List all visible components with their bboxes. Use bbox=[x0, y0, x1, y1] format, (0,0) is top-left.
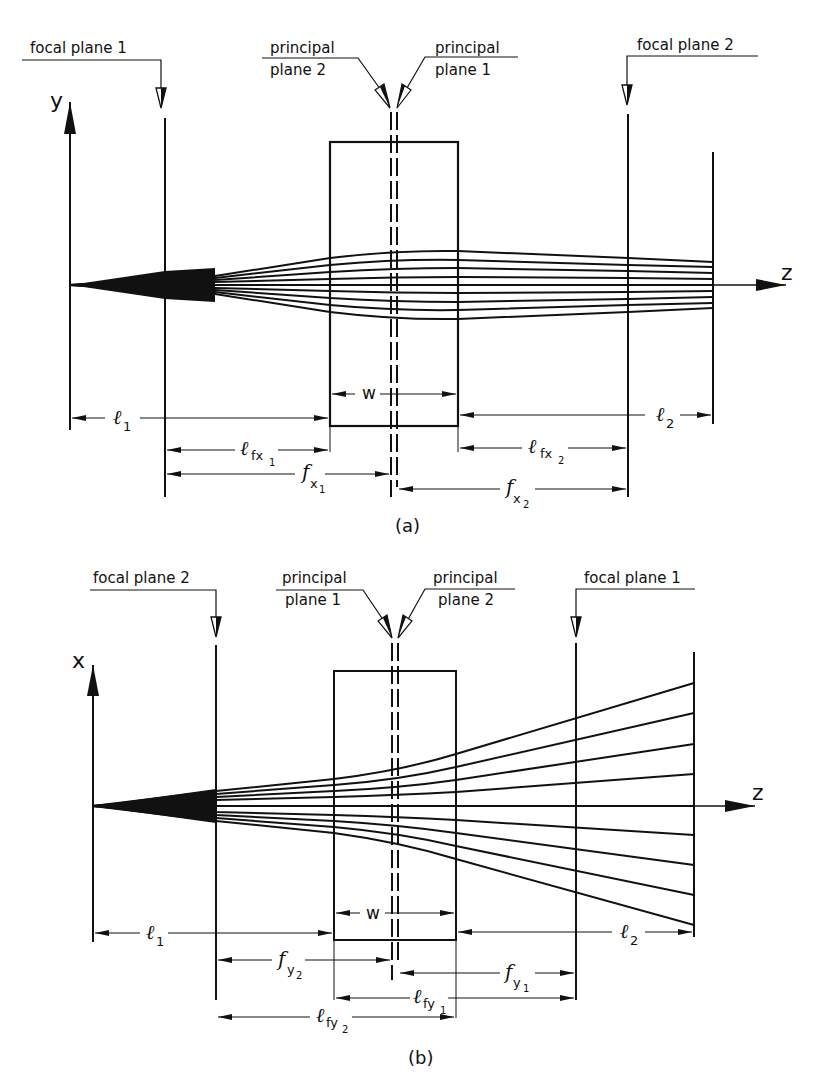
svg-text:ℓ: ℓ bbox=[113, 405, 122, 429]
callout-label-line2: plane 2 bbox=[438, 591, 494, 609]
callout-label-line1: principal bbox=[433, 569, 498, 587]
svg-text:ℓ: ℓ bbox=[146, 920, 155, 944]
dim-label-fy2: f y 2 bbox=[276, 947, 302, 981]
svg-text:1: 1 bbox=[123, 419, 131, 434]
axis-arrow-icon bbox=[64, 102, 76, 134]
svg-text:fx: fx bbox=[540, 446, 553, 461]
axis-label-y: y bbox=[50, 88, 63, 113]
callout-label: focal plane 2 bbox=[637, 36, 734, 54]
svg-text:x: x bbox=[310, 476, 318, 491]
axis-label-x: x bbox=[72, 648, 85, 673]
callout-focal-plane-right-a: focal plane 2 bbox=[622, 36, 758, 105]
callout-label-line1: principal bbox=[270, 39, 335, 57]
callout-principal-right-a: principal plane 1 bbox=[397, 39, 518, 108]
svg-text:fy: fy bbox=[423, 996, 435, 1011]
svg-text:2: 2 bbox=[630, 933, 638, 948]
dim-label-fy1: f y 1 bbox=[503, 960, 529, 994]
svg-text:1: 1 bbox=[156, 934, 164, 949]
callout-label-line2: plane 2 bbox=[270, 61, 326, 79]
svg-text:x: x bbox=[513, 491, 521, 506]
optics-diagram: focal plane 1 principal plane 2 principa… bbox=[0, 0, 818, 1086]
dim-label-l2: ℓ 2 bbox=[656, 402, 674, 431]
axis-label-z: z bbox=[781, 260, 793, 285]
svg-text:2: 2 bbox=[296, 970, 302, 981]
callout-focal-plane-right-b: focal plane 1 bbox=[571, 569, 695, 637]
callout-label: focal plane 1 bbox=[30, 39, 127, 57]
dim-label-l1: ℓ 1 bbox=[146, 920, 164, 949]
svg-text:2: 2 bbox=[558, 455, 564, 466]
callout-label-line1: principal bbox=[435, 39, 500, 57]
beam-rays-a bbox=[70, 251, 713, 319]
axis-arrow-icon bbox=[87, 665, 99, 696]
dim-label-lfx1: ℓ fx 1 bbox=[240, 436, 275, 468]
svg-text:ℓ: ℓ bbox=[240, 436, 249, 460]
svg-text:1: 1 bbox=[269, 457, 275, 468]
svg-text:ℓ: ℓ bbox=[528, 434, 537, 458]
svg-text:2: 2 bbox=[523, 499, 529, 510]
axis-x: x bbox=[72, 648, 99, 942]
dim-label-w: w bbox=[366, 903, 380, 923]
panel-a: focal plane 1 principal plane 2 principa… bbox=[22, 36, 793, 536]
axis-label-z: z bbox=[752, 780, 764, 805]
svg-text:fy: fy bbox=[326, 1015, 338, 1030]
caption-b: (b) bbox=[408, 1047, 433, 1068]
callout-focal-plane-left-a: focal plane 1 bbox=[22, 39, 166, 108]
dim-label-l2: ℓ 2 bbox=[620, 919, 638, 948]
beam-rays-b bbox=[93, 683, 694, 925]
dim-label-l1: ℓ 1 bbox=[113, 405, 131, 434]
svg-text:fx: fx bbox=[251, 448, 264, 463]
callout-label: focal plane 1 bbox=[584, 569, 681, 587]
callout-label-line2: plane 1 bbox=[285, 591, 341, 609]
callout-label-line2: plane 1 bbox=[435, 61, 491, 79]
svg-text:1: 1 bbox=[523, 983, 529, 994]
dim-label-lfy1: ℓ fy 1 bbox=[413, 984, 446, 1016]
svg-text:ℓ: ℓ bbox=[413, 984, 422, 1008]
svg-text:ℓ: ℓ bbox=[620, 919, 629, 943]
svg-text:ℓ: ℓ bbox=[656, 402, 665, 426]
axis-y: y bbox=[50, 88, 76, 430]
dim-label-fx1: f x 1 bbox=[300, 460, 325, 495]
panel-b: focal plane 2 principal plane 1 principa… bbox=[72, 569, 764, 1068]
dim-label-lfx2: ℓ fx 2 bbox=[528, 434, 564, 466]
svg-text:2: 2 bbox=[342, 1024, 348, 1035]
caption-a: (a) bbox=[395, 515, 420, 536]
svg-text:2: 2 bbox=[666, 416, 674, 431]
dim-label-lfy2: ℓ fy 2 bbox=[316, 1003, 348, 1035]
svg-text:1: 1 bbox=[440, 1005, 446, 1016]
dim-label-fx2: f x 2 bbox=[504, 475, 529, 510]
dimensions-b: ℓ 1 w ℓ 2 f y 2 bbox=[95, 903, 692, 1035]
callout-focal-plane-left-b: focal plane 2 bbox=[90, 569, 221, 637]
svg-text:y: y bbox=[513, 975, 521, 990]
svg-text:1: 1 bbox=[319, 484, 325, 495]
callout-principal-left-b: principal plane 1 bbox=[276, 569, 392, 638]
callout-principal-right-b: principal plane 2 bbox=[398, 569, 515, 638]
dim-label-w: w bbox=[362, 383, 376, 403]
callout-principal-left-a: principal plane 2 bbox=[262, 39, 390, 108]
svg-text:ℓ: ℓ bbox=[316, 1003, 325, 1027]
svg-text:y: y bbox=[287, 962, 295, 977]
callout-label-line1: principal bbox=[282, 569, 347, 587]
callout-label: focal plane 2 bbox=[93, 569, 190, 587]
